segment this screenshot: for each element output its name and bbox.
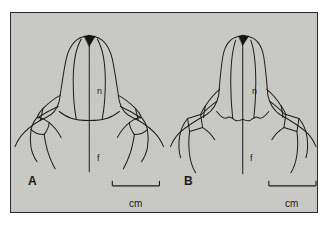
specimen-a-label: A — [28, 175, 37, 187]
figure-panel: A B n f n f cm cm — [10, 12, 318, 213]
specimen-a-right-lower-branch-3 — [117, 123, 129, 138]
scale-bars — [112, 181, 316, 186]
specimen-b-left-lower-branch-2 — [189, 132, 196, 173]
specimen-b-nasal-left-suture — [231, 40, 236, 118]
specimen-a-right-plate-suture-1 — [118, 95, 141, 117]
specimen-a-left-lower-branch-2 — [44, 135, 55, 169]
figure-drawing-svg — [11, 13, 317, 212]
specimen-b-drawing — [171, 35, 316, 173]
specimen-b-frontal-label: f — [250, 154, 253, 163]
specimen-b-left-lower-branch-1 — [179, 119, 188, 158]
specimen-b-left-rect-plate — [188, 115, 203, 132]
specimen-b-right-lower-branch-3 — [272, 128, 284, 140]
specimen-a-apex-triangle-icon — [84, 36, 95, 46]
specimen-a-right-lower-branch-2 — [123, 135, 134, 169]
specimen-b-right-lower-branch-1 — [299, 119, 308, 158]
specimen-a-scale-bar — [112, 181, 159, 186]
specimen-a-left-plate-suture-1 — [37, 95, 60, 117]
specimen-a-drawing — [15, 35, 163, 171]
specimen-b-apex-triangle-icon — [239, 36, 249, 45]
specimen-b-nasal-right-suture — [251, 40, 256, 118]
specimen-a-nasal-left-suture — [73, 39, 81, 118]
specimen-b-scale-caption: cm — [285, 199, 298, 209]
specimen-b-scale-bar — [269, 181, 316, 186]
specimen-a-nasal-label: n — [97, 87, 102, 96]
figure-root: A B n f n f cm cm — [0, 0, 329, 228]
specimen-a-scale-caption: cm — [129, 199, 142, 209]
specimen-a-left-lower-branch-3 — [49, 123, 61, 138]
specimen-a-right-lower-branch-1 — [141, 130, 148, 162]
specimen-a-frontal-label: f — [97, 154, 100, 163]
specimen-b-nasal-label: n — [252, 87, 257, 96]
specimen-b-left-lower-branch-3 — [203, 128, 215, 140]
specimen-b-right-rect-plate — [284, 115, 299, 132]
specimen-b-label: B — [184, 175, 193, 187]
specimen-a-left-lower-branch-1 — [30, 130, 37, 162]
specimen-a-nasal-right-suture — [97, 39, 105, 118]
specimen-b-right-lower-branch-2 — [291, 132, 298, 173]
